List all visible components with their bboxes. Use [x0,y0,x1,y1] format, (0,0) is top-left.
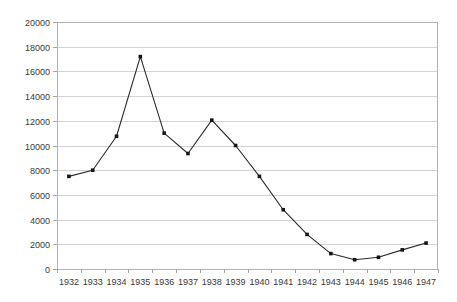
data-point-marker [234,144,238,148]
y-tick-label: 14000 [25,92,50,102]
x-tick-label: 1935 [130,277,150,287]
y-tick-label: 6000 [30,191,50,201]
x-tick-label: 1944 [345,277,365,287]
data-point-marker [162,131,166,135]
y-tick-label: 18000 [25,43,50,53]
chart-background [0,0,457,302]
data-point-marker [186,152,190,156]
x-tick-label: 1947 [416,277,436,287]
data-point-marker [67,175,71,179]
x-tick-label: 1942 [297,277,317,287]
data-point-marker [210,118,214,122]
y-tick-label: 8000 [30,166,50,176]
x-tick-label: 1940 [249,277,269,287]
x-tick-label: 1938 [202,277,222,287]
data-point-marker [400,248,404,252]
x-tick-label: 1932 [59,277,79,287]
y-tick-label: 12000 [25,117,50,127]
x-tick-label: 1943 [321,277,341,287]
data-point-marker [329,252,333,256]
line-chart: 0200040006000800010000120001400016000180… [0,0,457,302]
y-tick-label: 0 [45,265,50,275]
data-point-marker [377,255,381,259]
data-point-marker [115,134,119,138]
data-point-marker [91,168,95,172]
x-tick-label: 1941 [273,277,293,287]
data-point-marker [305,233,309,237]
x-tick-label: 1946 [392,277,412,287]
data-point-marker [424,241,428,245]
x-tick-label: 1939 [226,277,246,287]
y-tick-label: 10000 [25,142,50,152]
x-tick-label: 1945 [368,277,388,287]
x-tick-label: 1937 [178,277,198,287]
y-tick-label: 2000 [30,240,50,250]
y-tick-label: 20000 [25,18,50,28]
y-tick-label: 4000 [30,216,50,226]
data-point-marker [353,258,357,262]
x-tick-label: 1936 [154,277,174,287]
data-point-marker [258,175,262,179]
data-point-marker [281,208,285,212]
chart-canvas: 0200040006000800010000120001400016000180… [0,0,457,302]
data-point-marker [139,55,143,59]
x-tick-label: 1933 [83,277,103,287]
x-tick-label: 1934 [107,277,127,287]
y-tick-label: 16000 [25,67,50,77]
